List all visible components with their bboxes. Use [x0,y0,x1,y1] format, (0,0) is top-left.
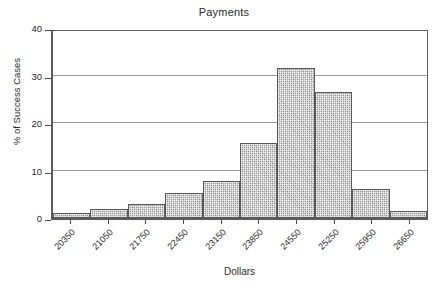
bar-slot [352,31,389,218]
x-tick-label: 26650 [391,227,416,252]
chart-figure: Payments % of Success Cases 010203040 20… [0,0,448,288]
x-tick-label: 25250 [316,227,341,252]
bar-slot [128,31,165,218]
bar-25950 [352,189,389,218]
x-tick-mark [183,220,184,224]
x-tick-21750: 21750 [126,220,164,266]
x-tick-label: 25950 [354,227,379,252]
x-tick-label: 22450 [165,227,190,252]
bar-23150 [203,181,240,218]
x-axis-label: Dollars [51,266,428,277]
bar-slot [315,31,352,218]
bar-slot [90,31,127,218]
bar-26650 [390,211,427,218]
x-tick-mark [409,220,410,224]
bar-slot [53,31,90,218]
x-tick-mark [221,220,222,224]
bar-slot [240,31,277,218]
x-tick-mark [70,220,71,224]
bar-23850 [240,143,277,218]
x-tick-24550: 24550 [277,220,315,266]
x-axis-ticks: 2035021050217502245023150238502455025250… [51,220,428,266]
y-tick-label: 10 [31,166,42,177]
bar-24550 [277,68,314,218]
bar-21050 [90,209,127,218]
chart-title: Payments [0,6,448,18]
x-tick-23150: 23150 [202,220,240,266]
x-tick-mark [371,220,372,224]
bar-25250 [315,92,352,218]
x-tick-label: 21750 [128,227,153,252]
x-tick-22450: 22450 [164,220,202,266]
x-tick-mark [296,220,297,224]
bar-22450 [165,193,202,218]
y-tick-label: 20 [31,118,42,129]
bar-series [53,31,427,218]
y-tick-label: 0 [37,213,42,224]
x-tick-label: 24550 [278,227,303,252]
x-tick-25250: 25250 [315,220,353,266]
bar-slot [203,31,240,218]
x-tick-label: 21050 [90,227,115,252]
x-tick-label: 23150 [203,227,228,252]
bar-slot [390,31,427,218]
x-tick-25950: 25950 [353,220,391,266]
x-tick-mark [334,220,335,224]
plot-area [51,30,428,220]
x-tick-mark [108,220,109,224]
y-tick-label: 30 [31,71,42,82]
x-tick-label: 23850 [241,227,266,252]
bar-slot [277,31,314,218]
bar-21750 [128,204,165,218]
x-tick-label: 20350 [52,227,77,252]
x-tick-20350: 20350 [51,220,89,266]
x-tick-26650: 26650 [390,220,428,266]
bar-20350 [53,213,90,218]
x-tick-23850: 23850 [240,220,278,266]
x-tick-mark [145,220,146,224]
bar-slot [165,31,202,218]
x-tick-mark [258,220,259,224]
y-axis-ticks: 010203040 [0,30,51,220]
x-tick-21050: 21050 [89,220,127,266]
y-tick-label: 40 [31,23,42,34]
